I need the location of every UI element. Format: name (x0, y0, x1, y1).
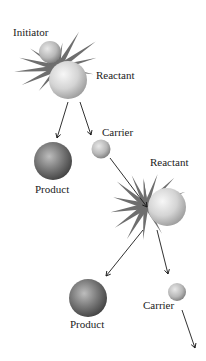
label-carrier-1: Carrier (102, 126, 133, 138)
chain-reaction-diagram: Initiator Reactant Carrier Product React… (0, 0, 206, 361)
arrow-carrier-to-reactant-2 (110, 158, 147, 207)
arrow-to-product-1 (57, 102, 68, 138)
arrow-carrier-2-out (182, 310, 195, 348)
reactant-sphere-1 (49, 61, 87, 99)
carrier-sphere-1 (92, 140, 111, 159)
arrow-to-carrier-1 (80, 102, 91, 135)
reactant-sphere-2 (148, 188, 186, 226)
label-product-2: Product (70, 318, 104, 330)
label-product-1: Product (35, 183, 69, 195)
product-sphere-2 (69, 279, 107, 317)
initiator-sphere (39, 41, 61, 63)
label-initiator: Initiator (13, 26, 49, 38)
label-reactant-1: Reactant (96, 69, 134, 81)
burst-spike (144, 180, 148, 206)
arrow-to-carrier-2 (157, 230, 168, 274)
arrow-to-product-2 (106, 230, 143, 276)
product-sphere-1 (34, 142, 72, 180)
label-reactant-2: Reactant (150, 156, 188, 168)
label-carrier-2: Carrier (143, 299, 174, 311)
